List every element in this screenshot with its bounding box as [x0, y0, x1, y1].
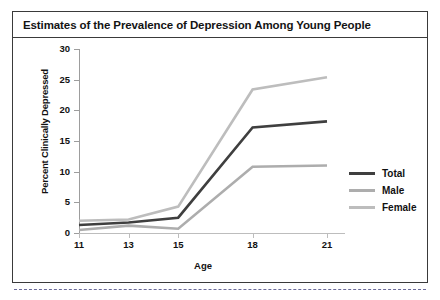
chart-page: Estimates of the Prevalence of Depressio… — [0, 0, 440, 300]
x-tick-label: 21 — [322, 239, 333, 250]
series-lines — [79, 49, 345, 239]
legend-swatch-icon — [349, 206, 375, 209]
x-tick-label: 15 — [173, 239, 184, 250]
chart-card: Estimates of the Prevalence of Depressio… — [12, 11, 428, 283]
y-tick-label: 25 — [59, 74, 70, 85]
series-line-female — [79, 77, 327, 221]
y-tick-label: 0 — [65, 227, 70, 238]
legend-item-female[interactable]: Female — [349, 201, 416, 213]
dashed-cut-line — [14, 289, 426, 290]
chart-title-bar: Estimates of the Prevalence of Depressio… — [13, 12, 427, 38]
y-tick-label: 5 — [65, 196, 70, 207]
legend-label: Total — [382, 168, 405, 179]
x-tick-label: 13 — [123, 239, 134, 250]
x-axis-title: Age — [79, 260, 327, 271]
legend-item-total[interactable]: Total — [349, 167, 416, 179]
chart-figure: Percent Clinically Depressed 05101520253… — [13, 38, 427, 282]
plot-area: 051015202530 1113151821 — [79, 49, 327, 234]
y-tick-label: 15 — [59, 135, 70, 146]
legend-label: Male — [382, 185, 404, 196]
y-tick-label: 30 — [59, 43, 70, 54]
legend-item-male[interactable]: Male — [349, 184, 416, 196]
x-tick-label: 11 — [74, 239, 84, 250]
legend-label: Female — [382, 202, 416, 213]
y-tick-label: 10 — [59, 166, 70, 177]
legend-swatch-icon — [349, 189, 375, 192]
legend-swatch-icon — [349, 172, 375, 175]
chart-title: Estimates of the Prevalence of Depressio… — [23, 19, 371, 31]
x-tick-label: 18 — [247, 239, 258, 250]
y-axis-title: Percent Clinically Depressed — [39, 57, 50, 207]
chart-legend: TotalMaleFemale — [349, 167, 416, 213]
y-tick-label: 20 — [59, 104, 70, 115]
